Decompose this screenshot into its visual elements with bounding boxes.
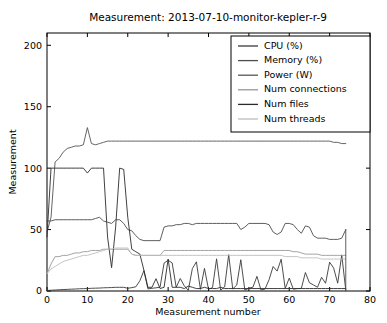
legend-label-memory[interactable]: Memory (%) <box>264 54 322 65</box>
x-tick-label: 0 <box>44 294 50 305</box>
legend-label-num-threads[interactable]: Num threads <box>264 113 326 124</box>
y-tick-label: 150 <box>24 101 42 112</box>
x-tick-label: 20 <box>122 294 134 305</box>
x-tick-label: 50 <box>243 294 255 305</box>
legend-label-num-connections[interactable]: Num connections <box>264 83 347 94</box>
matplotlib-figure: Measurement: 2013-07-10-monitor-kepler-r… <box>0 0 387 323</box>
chart-legend[interactable]: CPU (%)Memory (%)Power (W)Num connection… <box>231 36 370 132</box>
chart-title: Measurement: 2013-07-10-monitor-kepler-r… <box>89 11 327 23</box>
legend-label-cpu[interactable]: CPU (%) <box>264 40 303 51</box>
y-tick-label: 50 <box>30 224 42 235</box>
x-tick-label: 30 <box>162 294 174 305</box>
x-tick-label: 10 <box>81 294 93 305</box>
x-tick-label: 60 <box>283 294 295 305</box>
x-tick-label: 70 <box>324 294 336 305</box>
y-tick-label: 200 <box>24 40 42 51</box>
y-tick-label: 0 <box>36 285 42 296</box>
x-tick-label: 40 <box>202 294 214 305</box>
x-tick-label: 80 <box>364 294 376 305</box>
x-axis-label: Measurement number <box>155 306 260 317</box>
y-tick-label: 100 <box>24 163 42 174</box>
legend-label-power-w[interactable]: Power (W) <box>264 69 313 80</box>
legend-label-num-files[interactable]: Num files <box>264 98 309 109</box>
line-chart: Measurement: 2013-07-10-monitor-kepler-r… <box>0 0 387 323</box>
y-axis-label: Measurement <box>7 129 18 194</box>
